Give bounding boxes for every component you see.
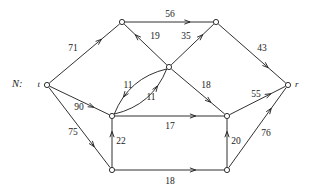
edge-weight-label: 43 xyxy=(257,43,267,53)
labels-layer: 71561935431111185590177522207618tr xyxy=(37,9,299,186)
diagram-name-label: N: xyxy=(11,78,23,89)
edge-c-d xyxy=(114,69,166,114)
edge-d-c xyxy=(114,69,166,114)
edge-c-e xyxy=(171,69,224,114)
node-c xyxy=(166,64,171,69)
node-b xyxy=(213,19,218,24)
edge-weight-label: 20 xyxy=(231,136,241,146)
node-r xyxy=(285,82,290,87)
edge-line xyxy=(114,69,166,114)
edge-weight-label: 75 xyxy=(68,127,78,137)
edge-line xyxy=(171,69,224,114)
edge-f-d xyxy=(110,119,114,167)
edge-line xyxy=(49,24,119,83)
edge-weight-label: 18 xyxy=(165,176,175,186)
edge-weight-label: 35 xyxy=(181,31,191,41)
edge-c-a xyxy=(124,24,167,65)
node-e xyxy=(224,113,229,118)
node-t xyxy=(44,82,49,87)
edge-c-b xyxy=(171,24,214,65)
edge-t-a xyxy=(49,24,119,83)
node-d xyxy=(109,113,114,118)
edge-weight-label: 71 xyxy=(68,43,78,53)
edge-weight-label: 17 xyxy=(165,121,175,131)
edge-f-g xyxy=(115,168,224,172)
node-g xyxy=(224,167,229,172)
node-label-t: t xyxy=(37,79,40,89)
edge-line xyxy=(124,24,167,65)
edge-weight-label: 90 xyxy=(74,102,84,112)
edge-line xyxy=(171,24,214,65)
edge-weight-label: 55 xyxy=(251,89,261,99)
edge-line xyxy=(218,24,285,83)
edge-line xyxy=(114,69,166,114)
network-diagram-page: 71561935431111185590177522207618tr N: xyxy=(0,0,310,196)
edge-weight-label: 18 xyxy=(201,80,211,90)
edge-weight-label: 11 xyxy=(146,92,155,102)
edge-weight-label: 76 xyxy=(261,128,271,138)
edge-weight-label: 56 xyxy=(165,9,175,19)
edge-line xyxy=(229,87,287,167)
edge-weight-label: 22 xyxy=(116,136,126,146)
edge-line xyxy=(49,87,110,167)
edge-d-e xyxy=(115,114,224,118)
edge-weight-label: 11 xyxy=(123,80,132,90)
edge-b-r xyxy=(218,24,285,83)
node-a xyxy=(119,19,124,24)
edge-t-f xyxy=(49,87,110,167)
edge-a-b xyxy=(125,20,213,24)
edge-g-e xyxy=(225,119,229,167)
edge-weight-label: 19 xyxy=(150,31,160,41)
node-label-r: r xyxy=(295,79,299,89)
network-diagram-canvas: 71561935431111185590177522207618tr N: xyxy=(0,0,310,196)
node-f xyxy=(109,167,114,172)
edge-g-r xyxy=(229,87,287,167)
